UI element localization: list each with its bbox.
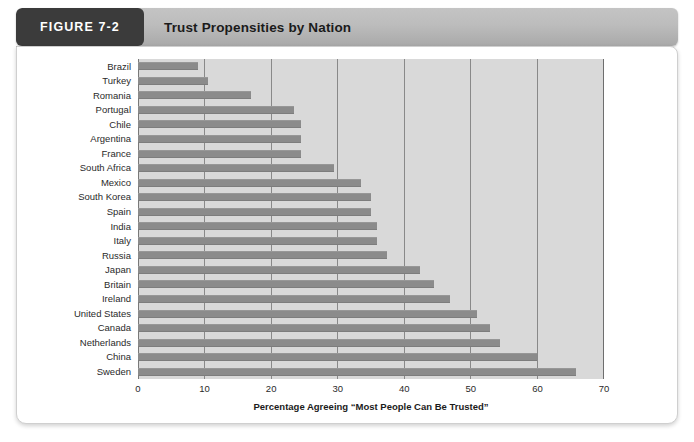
bar-series [138,59,603,379]
x-axis-title: Percentage Agreeing “Most People Can Be … [138,401,604,412]
bar [138,368,576,376]
bar-row [138,292,603,307]
x-tick-label: 70 [599,383,610,394]
bar [138,120,301,128]
category-label: Portugal [31,103,137,118]
category-label: Italy [31,234,137,249]
bar [138,251,387,259]
category-label: Argentina [31,132,137,147]
bar-row [138,321,603,336]
bar [138,237,377,245]
category-label: Sweden [31,364,137,379]
bar [138,62,198,70]
bar-row [138,103,603,118]
bar-chart: BrazilTurkeyRomaniaPortugalChileArgentin… [17,47,679,425]
figure-number-label: FIGURE 7-2 [40,20,120,34]
bar-row [138,117,603,132]
bar [138,106,294,114]
bar [138,135,301,143]
category-label: Canada [31,321,137,336]
x-tick-label: 0 [135,383,140,394]
x-tick-label: 40 [399,383,410,394]
category-label: South Korea [31,190,137,205]
plot-area [138,59,604,379]
bar-row [138,364,603,379]
x-axis-tick-labels: 010203040506070 [138,383,604,397]
bar [138,222,377,230]
category-label: Brazil [31,59,137,74]
bar [138,91,251,99]
category-label: Spain [31,204,137,219]
bar [138,150,301,158]
category-label: Ireland [31,292,137,307]
bar-row [138,204,603,219]
bar-row [138,263,603,278]
bar-row [138,335,603,350]
x-tick-label: 60 [532,383,543,394]
bar-row [138,306,603,321]
bar [138,193,371,201]
category-axis-labels: BrazilTurkeyRomaniaPortugalChileArgentin… [31,59,137,379]
figure-header: FIGURE 7-2 Trust Propensities by Nation [16,8,678,46]
bar [138,339,500,347]
category-label: South Africa [31,161,137,176]
bar-row [138,146,603,161]
category-label: Japan [31,263,137,278]
category-label: Turkey [31,74,137,89]
bar-row [138,132,603,147]
x-tick-label: 20 [266,383,277,394]
figure-card: BrazilTurkeyRomaniaPortugalChileArgentin… [16,46,678,424]
bar-row [138,190,603,205]
bar [138,324,490,332]
category-label: Britain [31,277,137,292]
figure-number-tab: FIGURE 7-2 [16,8,144,46]
category-label: India [31,219,137,234]
figure-page: FIGURE 7-2 Trust Propensities by Nation … [0,0,694,442]
bar [138,310,477,318]
category-label: France [31,146,137,161]
bar-row [138,88,603,103]
x-tick-label: 10 [199,383,210,394]
bar [138,353,537,361]
bar [138,77,208,85]
bar-row [138,175,603,190]
category-label: Netherlands [31,335,137,350]
bar-row [138,219,603,234]
bar-row [138,161,603,176]
category-label: China [31,350,137,365]
x-tick-label: 30 [332,383,343,394]
bar-row [138,74,603,89]
bar-row [138,59,603,74]
bar [138,280,434,288]
bar [138,295,450,303]
figure-title: Trust Propensities by Nation [164,8,351,46]
bar-row [138,277,603,292]
bar-row [138,350,603,365]
category-label: Chile [31,117,137,132]
bar-row [138,248,603,263]
category-label: Russia [31,248,137,263]
category-label: Romania [31,88,137,103]
bar [138,266,420,274]
x-tick-label: 50 [466,383,477,394]
bar [138,164,334,172]
bar-row [138,234,603,249]
category-label: United States [31,306,137,321]
category-label: Mexico [31,175,137,190]
bar [138,208,371,216]
bar [138,179,361,187]
